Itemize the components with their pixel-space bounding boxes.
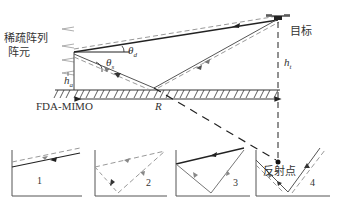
ground-hatch (54, 90, 280, 98)
theta-d-label: θd (128, 44, 137, 61)
path-2-label: 2 (146, 177, 151, 189)
theta-s-label: θs (106, 56, 114, 73)
target-height-label: ht (284, 56, 291, 73)
path-panel-2 (95, 150, 167, 196)
target-label: 目标 (290, 26, 312, 38)
radar-label: FDA-MIMO (36, 100, 93, 112)
reflection-point-label: 反射点 (263, 166, 296, 178)
radar-height-label: ha (64, 74, 73, 91)
path-4-label: 4 (310, 177, 315, 189)
path-3-label: 3 (233, 177, 238, 189)
array-elements (62, 27, 74, 75)
path-1-label: 1 (37, 175, 42, 187)
range-label: R (155, 100, 162, 112)
array-element-label: 阵元 (8, 47, 30, 59)
target-drone-icon (266, 15, 290, 20)
sparse-array-label: 稀疏阵列 (4, 33, 48, 45)
path-panel-1 (12, 148, 82, 196)
reflection-point-marker (276, 160, 281, 165)
direct-path-dashed (74, 16, 278, 49)
path-panel-3 (176, 148, 250, 196)
